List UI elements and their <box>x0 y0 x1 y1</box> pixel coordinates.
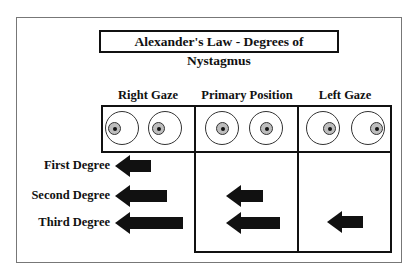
column-header-left-gaze: Left Gaze <box>298 88 392 103</box>
iris-icon <box>108 122 121 135</box>
pupil-icon <box>328 127 332 131</box>
row-label-third-degree: Third Degree <box>0 215 110 230</box>
eye-left-gaze-1 <box>306 111 340 145</box>
pupil-icon <box>265 127 269 131</box>
arrow-left-icon-third-left-gaze <box>327 211 363 233</box>
grid-left-line <box>101 105 103 153</box>
eye-right-gaze-1 <box>105 111 139 145</box>
iris-icon <box>370 122 383 135</box>
iris-icon <box>216 122 229 135</box>
pupil-icon <box>157 127 161 131</box>
iris-icon <box>260 122 273 135</box>
pupil-icon <box>221 127 225 131</box>
diagram-title: Alexander's Law - Degrees of Nystagmus <box>99 30 339 53</box>
arrow-left-icon-first-right-gaze <box>115 155 151 177</box>
arrow-left-icon-second-primary <box>226 185 263 207</box>
eye-primary-1 <box>205 111 239 145</box>
arrow-left-icon-second-right-gaze <box>115 185 167 207</box>
iris-icon <box>152 122 165 135</box>
grid-top-line <box>101 105 392 107</box>
column-header-primary-position: Primary Position <box>196 88 298 103</box>
row-label-first-degree: First Degree <box>0 158 110 173</box>
grid-right-line <box>390 105 392 253</box>
grid-eye-row-bottom-line <box>101 151 392 153</box>
eye-primary-2 <box>249 111 283 145</box>
grid-divider-2 <box>297 105 299 253</box>
grid-divider-1 <box>194 105 196 253</box>
row-label-second-degree: Second Degree <box>0 188 110 203</box>
pupil-icon <box>113 127 117 131</box>
column-header-right-gaze: Right Gaze <box>101 88 195 103</box>
arrow-left-icon-third-right-gaze <box>115 212 183 234</box>
grid-bottom-line <box>194 251 392 253</box>
pupil-icon <box>375 127 379 131</box>
iris-icon <box>323 122 336 135</box>
eye-right-gaze-2 <box>148 111 182 145</box>
arrow-left-icon-third-primary <box>226 212 280 234</box>
eye-left-gaze-2 <box>351 111 385 145</box>
